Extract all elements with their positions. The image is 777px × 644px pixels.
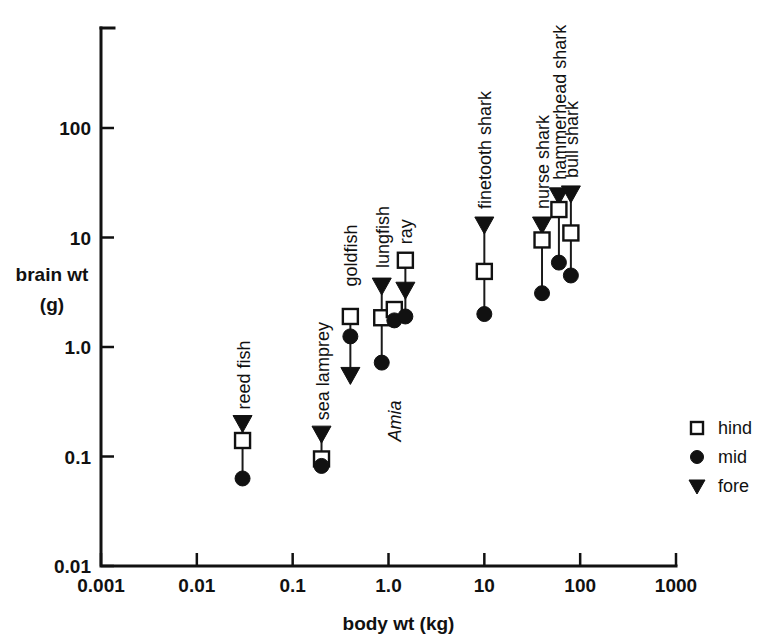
data-point-hind (235, 433, 250, 448)
x-tick-label-0.001: 0.001 (77, 575, 125, 596)
group-label-amia: Amia (385, 400, 405, 442)
x-tick-label-100: 100 (564, 575, 596, 596)
data-point-mid (477, 307, 492, 322)
legend-label-mid: mid (718, 447, 747, 467)
scatter-plot: 100101.00.10.010.0010.010.11.0101001000 … (0, 0, 777, 644)
data-point-hind (343, 309, 358, 324)
legend-label-fore: fore (718, 476, 749, 496)
y-tick-label-10: 10 (70, 228, 91, 249)
data-group (341, 309, 360, 384)
legend-marker-open-square (691, 422, 703, 434)
data-point-hind (398, 253, 413, 268)
data-group (233, 416, 252, 486)
data-point-hind (535, 232, 550, 247)
group-label-finetooth-shark: finetooth shark (475, 90, 495, 209)
group-label-reed-fish: reed fish (234, 340, 254, 409)
x-tick-label-1.0: 1.0 (375, 575, 401, 596)
data-point-fore (312, 426, 331, 443)
data-group (396, 253, 415, 324)
x-tick-label-1000: 1000 (655, 575, 697, 596)
y-axis-title-line1: brain wt (16, 264, 90, 285)
group-label-sea-lamprey: sea lamprey (313, 322, 333, 420)
legend-item-hind[interactable]: hind (691, 418, 752, 438)
legend-label-hind: hind (718, 418, 752, 438)
legend-item-mid[interactable]: mid (691, 447, 748, 467)
data-point-mid (551, 255, 566, 270)
legend-item-fore[interactable]: fore (689, 476, 749, 496)
data-point-hind (477, 264, 492, 279)
legend-marker-filled-circle (691, 451, 704, 464)
y-tick-label-100: 100 (59, 118, 91, 139)
legend-marker-filled-triangle-down (689, 480, 705, 494)
y-axis-title-line2: (g) (40, 294, 64, 315)
x-tick-label-0.1: 0.1 (279, 575, 306, 596)
group-label-lungfish: lungfish (373, 206, 393, 268)
data-point-mid (563, 268, 578, 283)
chart-figure: 100101.00.10.010.0010.010.11.0101001000 … (0, 0, 777, 644)
legend[interactable]: hindmidfore (689, 418, 752, 496)
group-labels: reed fishsea lampreygoldfishlungfishAmia… (234, 24, 582, 443)
y-tick-label-0.01: 0.01 (54, 556, 91, 577)
group-label-goldfish: goldfish (341, 224, 361, 286)
data-point-mid (398, 309, 413, 324)
data-point-fore (372, 278, 391, 295)
data-point-mid (343, 329, 358, 344)
y-tick-label-0.1: 0.1 (65, 447, 92, 468)
group-label-ray: ray (396, 219, 416, 244)
tick-labels: 100101.00.10.010.0010.010.11.0101001000 (54, 118, 697, 596)
data-group (475, 217, 494, 322)
data-point-mid (314, 458, 329, 473)
data-group (533, 217, 552, 301)
data-point-fore (475, 217, 494, 234)
data-point-fore (233, 416, 252, 433)
axes (101, 28, 676, 566)
axis-frame (101, 28, 676, 566)
data-point-hind (563, 225, 578, 240)
y-tick-label-1.0: 1.0 (65, 337, 91, 358)
x-tick-label-0.01: 0.01 (178, 575, 215, 596)
data-point-mid (374, 355, 389, 370)
data-point-fore (396, 282, 415, 299)
data-point-fore (341, 367, 360, 384)
x-tick-label-10: 10 (474, 575, 495, 596)
data-group (312, 426, 331, 473)
data-point-hind (551, 202, 566, 217)
group-label-bull-shark: bull shark (562, 100, 582, 178)
x-axis-title: body wt (kg) (343, 613, 455, 634)
data-point-mid (235, 471, 250, 486)
data-point-mid (535, 286, 550, 301)
